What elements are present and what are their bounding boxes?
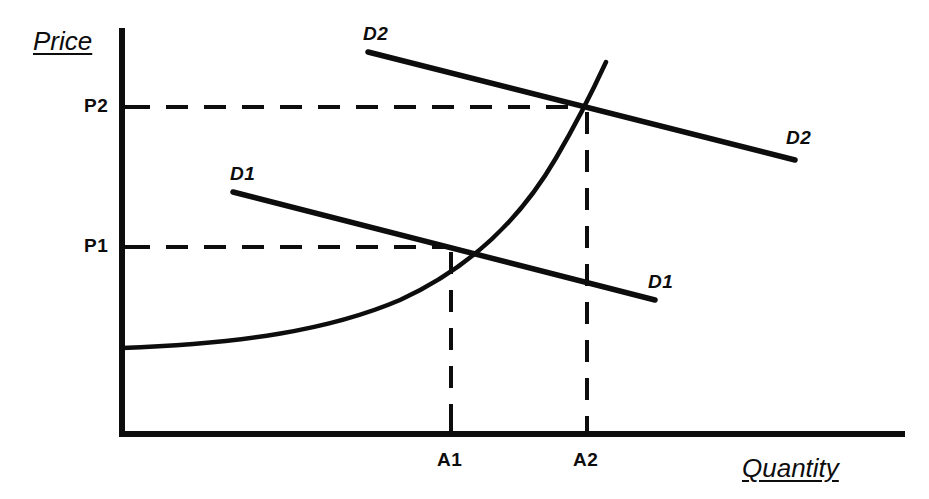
- y-tick-label-p2: P2: [84, 96, 108, 115]
- supply-curve: [122, 62, 606, 348]
- curve-label-d1-left: D1: [230, 164, 255, 183]
- x-tick-label-a2: A2: [573, 450, 598, 469]
- y-tick-label-p1: P1: [84, 236, 108, 255]
- chart-canvas: [0, 0, 929, 499]
- supply-demand-chart: Price Quantity P2 P1 A1 A2 D2 D2 D1 D1: [0, 0, 929, 499]
- curve-label-d2-left: D2: [363, 24, 388, 43]
- curve-label-d2-right: D2: [786, 128, 811, 147]
- x-axis-title: Quantity: [742, 455, 839, 481]
- y-axis-title: Price: [33, 28, 92, 54]
- x-tick-label-a1: A1: [437, 450, 462, 469]
- curve-label-d1-right: D1: [648, 272, 673, 291]
